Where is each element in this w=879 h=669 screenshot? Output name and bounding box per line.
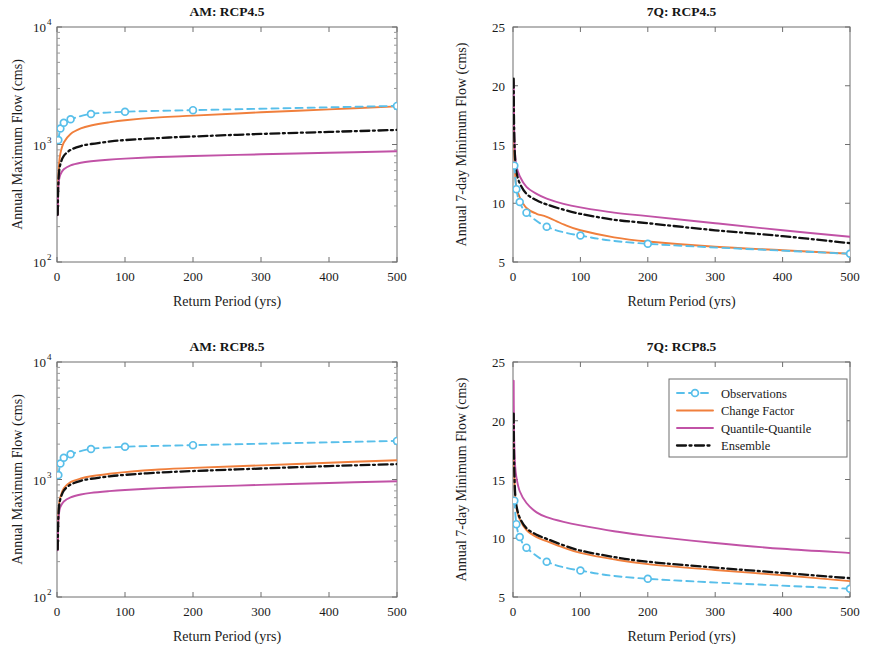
x-tick-label: 100 bbox=[115, 269, 135, 284]
plot-title: AM: RCP4.5 bbox=[190, 4, 265, 19]
x-tick-label: 400 bbox=[319, 604, 339, 619]
data-point-marker bbox=[511, 162, 518, 169]
x-tick-label: 100 bbox=[571, 269, 591, 284]
svg-text:10: 10 bbox=[33, 590, 46, 605]
data-point-marker bbox=[67, 116, 74, 123]
axis-box bbox=[57, 362, 397, 597]
x-tick-label: 500 bbox=[387, 604, 407, 619]
axis-box bbox=[57, 27, 397, 262]
x-tick-label: 500 bbox=[840, 604, 860, 619]
x-tick-label: 300 bbox=[251, 269, 271, 284]
data-point-marker bbox=[394, 103, 401, 110]
x-tick-label: 400 bbox=[773, 269, 793, 284]
data-point-marker bbox=[511, 497, 518, 504]
legend-label: Observations bbox=[721, 387, 787, 401]
y-tick-label: 102 bbox=[33, 252, 52, 270]
x-tick-label: 300 bbox=[705, 604, 725, 619]
data-point-marker bbox=[122, 443, 129, 450]
y-tick-label: 102 bbox=[33, 587, 52, 605]
svg-text:10: 10 bbox=[33, 138, 46, 153]
data-point-marker bbox=[577, 567, 584, 574]
chart-panel-am_rcp45: AM: RCP4.50100200300400500102103104Retur… bbox=[0, 0, 440, 335]
svg-text:2: 2 bbox=[47, 252, 52, 262]
y-axis-label: Annual 7-day Minimum Flow (cms) bbox=[454, 377, 470, 581]
data-point-marker bbox=[847, 250, 854, 257]
x-axis-label: Return Period (yrs) bbox=[173, 629, 281, 645]
svg-text:2: 2 bbox=[47, 587, 52, 597]
x-tick-label: 0 bbox=[54, 604, 61, 619]
y-tick-label: 5 bbox=[499, 255, 506, 270]
x-tick-label: 200 bbox=[638, 604, 658, 619]
data-point-marker bbox=[644, 240, 651, 247]
x-tick-label: 300 bbox=[705, 269, 725, 284]
data-point-marker bbox=[190, 107, 197, 114]
x-tick-label: 500 bbox=[387, 269, 407, 284]
x-tick-label: 400 bbox=[773, 604, 793, 619]
svg-text:10: 10 bbox=[33, 255, 46, 270]
x-tick-label: 200 bbox=[183, 604, 203, 619]
series-group bbox=[511, 79, 853, 257]
x-tick-label: 400 bbox=[319, 269, 339, 284]
series-group bbox=[55, 103, 400, 216]
y-tick-label: 15 bbox=[492, 473, 505, 488]
data-point-marker bbox=[394, 438, 401, 445]
data-point-marker bbox=[122, 108, 129, 115]
y-tick-label: 103 bbox=[33, 470, 52, 488]
legend-label: Change Factor bbox=[721, 404, 795, 418]
x-tick-label: 100 bbox=[115, 604, 135, 619]
chart-legend: ObservationsChange FactorQuantile-Quanti… bbox=[669, 379, 847, 457]
y-axis-label: Annual Maximum Flow (cms) bbox=[10, 394, 26, 565]
series-change-factor bbox=[58, 460, 397, 548]
plot-title: 7Q: RCP4.5 bbox=[647, 4, 717, 19]
data-point-marker bbox=[523, 544, 530, 551]
series-ensemble bbox=[58, 130, 397, 215]
legend-label: Quantile-Quantile bbox=[721, 422, 812, 436]
chart-panel-7q_rcp85: 7Q: RCP8.50100200300400500510152025Retur… bbox=[440, 335, 879, 669]
series-observations bbox=[55, 438, 400, 479]
legend-label: Ensemble bbox=[721, 439, 771, 453]
x-tick-label: 0 bbox=[510, 269, 517, 284]
series-ensemble bbox=[514, 79, 850, 244]
y-tick-label: 15 bbox=[492, 138, 505, 153]
y-axis-label: Annual Maximum Flow (cms) bbox=[10, 59, 26, 230]
y-tick-label: 104 bbox=[33, 17, 52, 35]
data-point-marker bbox=[60, 454, 67, 461]
svg-text:4: 4 bbox=[47, 352, 52, 362]
y-tick-label: 103 bbox=[33, 135, 52, 153]
legend-marker-icon bbox=[692, 390, 699, 397]
series-quantile-quantile bbox=[514, 82, 850, 237]
y-tick-label: 25 bbox=[492, 20, 505, 35]
data-point-marker bbox=[644, 575, 651, 582]
data-point-marker bbox=[513, 186, 520, 193]
x-tick-label: 200 bbox=[638, 269, 658, 284]
svg-text:10: 10 bbox=[33, 355, 46, 370]
y-tick-label: 5 bbox=[499, 590, 506, 605]
x-tick-label: 300 bbox=[251, 604, 271, 619]
chart-panel-7q_rcp45: 7Q: RCP4.50100200300400500510152025Retur… bbox=[440, 0, 879, 335]
x-tick-label: 200 bbox=[183, 269, 203, 284]
svg-text:10: 10 bbox=[33, 20, 46, 35]
y-tick-label: 10 bbox=[492, 196, 505, 211]
data-point-marker bbox=[55, 472, 62, 479]
x-tick-label: 100 bbox=[571, 604, 591, 619]
data-point-marker bbox=[67, 451, 74, 458]
y-axis-label: Annual 7-day Minimum Flow (cms) bbox=[454, 42, 470, 246]
figure-root: AM: RCP4.50100200300400500102103104Retur… bbox=[0, 0, 879, 669]
data-point-marker bbox=[190, 442, 197, 449]
x-axis-label: Return Period (yrs) bbox=[627, 294, 735, 310]
x-axis-label: Return Period (yrs) bbox=[173, 294, 281, 310]
series-quantile-quantile bbox=[58, 151, 397, 215]
y-tick-label: 25 bbox=[492, 355, 505, 370]
x-axis-label: Return Period (yrs) bbox=[627, 629, 735, 645]
data-point-marker bbox=[543, 558, 550, 565]
data-point-marker bbox=[60, 119, 67, 126]
series-group bbox=[55, 438, 400, 551]
series-ensemble bbox=[58, 464, 397, 549]
chart-panel-am_rcp85: AM: RCP8.50100200300400500102103104Retur… bbox=[0, 335, 440, 669]
series-change-factor bbox=[514, 98, 850, 254]
y-tick-label: 20 bbox=[492, 414, 505, 429]
svg-text:3: 3 bbox=[47, 470, 52, 480]
data-point-marker bbox=[55, 137, 62, 144]
svg-text:4: 4 bbox=[47, 17, 52, 27]
data-point-marker bbox=[543, 223, 550, 230]
